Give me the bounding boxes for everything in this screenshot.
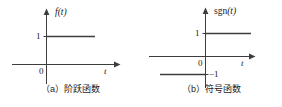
origin-label: 0 — [39, 67, 44, 76]
y-tick-label-1: 1 — [36, 32, 41, 41]
y-tick-label-1: 1 — [195, 29, 200, 38]
y-axis-label: sgn(t) — [214, 7, 236, 16]
y-axis — [44, 9, 50, 85]
y-tick-label-minus-1: −1 — [209, 70, 219, 79]
x-axis-label: t — [104, 67, 107, 76]
panel-step-function: f(t) 1 0 t （a）阶跃函数 — [0, 0, 141, 107]
panel-sign-function: sgn(t) 1 0 −1 t （b）符号函数 — [141, 0, 282, 107]
y-axis — [203, 8, 209, 89]
figure-container: f(t) 1 0 t （a）阶跃函数 — [0, 0, 282, 107]
panel-caption-b: （b）符号函数 — [141, 84, 282, 95]
y-axis-label: f(t) — [55, 8, 67, 17]
x-axis-label: t — [241, 59, 244, 68]
panel-caption-a: （a）阶跃函数 — [0, 84, 141, 95]
origin-label: 0 — [198, 59, 203, 68]
